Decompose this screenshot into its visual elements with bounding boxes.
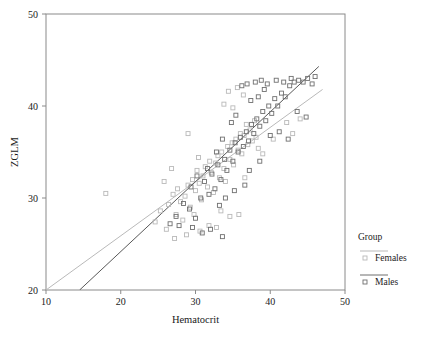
data-point — [181, 218, 185, 222]
data-point — [194, 189, 198, 193]
data-point — [104, 191, 108, 195]
x-tick-label: 40 — [265, 296, 275, 307]
data-point — [223, 179, 227, 183]
data-point — [185, 233, 189, 237]
y-tick-label: 20 — [28, 285, 38, 296]
data-point — [286, 137, 290, 141]
data-point — [258, 159, 262, 163]
y-tick-label: 30 — [28, 193, 38, 204]
data-point — [223, 196, 227, 200]
data-point — [262, 87, 266, 91]
data-point — [183, 194, 187, 198]
data-point — [195, 168, 199, 172]
plot-canvas: 102030405020304050HematocritZGLMGroupFem… — [0, 0, 422, 338]
data-point — [168, 222, 172, 226]
data-point — [274, 78, 278, 82]
legend-marker-males — [363, 280, 367, 284]
data-point — [202, 179, 206, 183]
data-point — [288, 84, 292, 88]
data-point — [177, 224, 181, 228]
data-point — [235, 86, 239, 90]
data-point — [265, 82, 269, 86]
data-point — [297, 78, 301, 82]
series-males — [168, 75, 317, 239]
y-tick-label: 50 — [28, 9, 38, 20]
scatter-plot-figure: 102030405020304050HematocritZGLMGroupFem… — [0, 0, 422, 338]
data-point — [261, 152, 265, 156]
plot-area — [46, 66, 323, 290]
data-point — [214, 225, 218, 229]
data-point — [245, 82, 249, 86]
data-point — [259, 78, 263, 82]
data-point — [253, 80, 257, 84]
data-point — [256, 146, 260, 150]
data-point — [244, 122, 248, 126]
data-point — [258, 124, 262, 128]
data-point — [186, 132, 190, 136]
data-point — [267, 104, 271, 108]
legend-marker-females — [363, 256, 367, 260]
data-point — [273, 97, 277, 101]
data-point — [191, 225, 195, 229]
y-axis-title: ZGLM — [9, 136, 20, 166]
x-axis-title: Hematocrit — [172, 314, 219, 325]
data-point — [191, 178, 195, 182]
series-females — [104, 86, 302, 241]
data-point — [229, 121, 233, 125]
data-point — [195, 174, 199, 178]
data-point — [295, 110, 299, 114]
data-point — [176, 187, 180, 191]
data-point — [197, 181, 201, 185]
data-point — [291, 132, 295, 136]
data-point — [285, 121, 289, 125]
x-tick-label: 20 — [116, 296, 126, 307]
data-point — [162, 179, 166, 183]
plot-frame — [46, 14, 345, 290]
data-point — [208, 159, 212, 163]
x-tick-label: 50 — [340, 296, 350, 307]
data-point — [261, 110, 265, 114]
data-point — [234, 113, 238, 117]
data-point — [240, 84, 244, 88]
legend-label-females: Females — [375, 253, 407, 263]
fit-line-females — [46, 89, 323, 290]
data-point — [173, 236, 177, 240]
x-tick-label: 30 — [191, 296, 201, 307]
data-point — [217, 203, 221, 207]
data-point — [232, 189, 236, 193]
data-point — [264, 119, 268, 123]
data-point — [256, 95, 260, 99]
data-point — [164, 227, 168, 231]
data-point — [247, 168, 251, 172]
legend-label-males: Males — [375, 277, 399, 287]
data-point — [205, 185, 209, 189]
data-point — [226, 89, 230, 93]
data-point — [241, 93, 245, 97]
data-point — [310, 82, 314, 86]
data-point — [171, 192, 175, 196]
data-point — [219, 209, 223, 213]
data-point — [220, 137, 224, 141]
legend-title: Group — [358, 232, 383, 242]
y-tick-label: 40 — [28, 101, 38, 112]
data-point — [237, 213, 241, 217]
data-point — [304, 115, 308, 119]
data-point — [231, 106, 235, 110]
x-tick-label: 10 — [41, 296, 51, 307]
data-point — [249, 98, 253, 102]
data-point — [298, 117, 302, 121]
data-point — [243, 176, 247, 180]
data-point — [282, 80, 286, 84]
data-point — [170, 167, 174, 171]
data-point — [196, 156, 200, 160]
data-point — [222, 102, 226, 106]
data-point — [158, 209, 162, 213]
data-point — [207, 192, 211, 196]
legend: GroupFemalesMales — [358, 232, 407, 287]
data-point — [243, 183, 247, 187]
data-point — [313, 75, 317, 79]
data-point — [277, 130, 281, 134]
data-point — [220, 235, 224, 239]
data-point — [228, 214, 232, 218]
